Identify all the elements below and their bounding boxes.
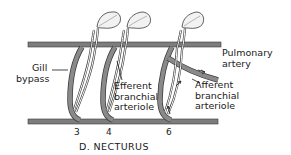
dorsal-vessel-bar: [28, 42, 221, 47]
arch-number-6: 6: [166, 127, 172, 137]
label-line: arteriole: [114, 102, 158, 113]
label-efferent-branchial-arteriole: Efferent branchial arteriole: [114, 81, 158, 113]
label-line: Gill: [16, 63, 49, 74]
label-gill-bypass: Gill bypass: [16, 63, 49, 84]
diagram-title: D. NECTURUS: [79, 141, 149, 152]
label-line: Efferent: [114, 81, 158, 92]
ventral-vessel-bar: [28, 119, 218, 124]
label-line: Afferent: [195, 80, 239, 91]
label-line: arteriole: [195, 101, 239, 112]
label-afferent-branchial-arteriole: Afferent branchial arteriole: [195, 80, 239, 112]
arch-number-4: 4: [106, 127, 112, 137]
arch-number-3: 3: [74, 127, 80, 137]
label-line: artery: [222, 59, 273, 70]
label-pulmonary-artery: Pulmonary artery: [222, 48, 273, 69]
label-line: bypass: [16, 74, 49, 85]
label-line: Pulmonary: [222, 48, 273, 59]
